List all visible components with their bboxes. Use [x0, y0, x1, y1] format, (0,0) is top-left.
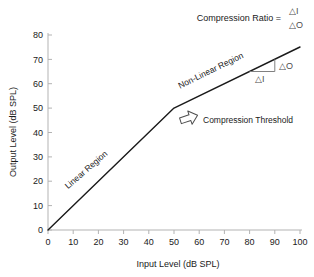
y-tick-label: 80 [33, 30, 43, 40]
delta-i-label: △I [255, 74, 265, 84]
linear-region-label: Linear Region [63, 148, 110, 190]
x-tick-label: 90 [270, 237, 280, 247]
legend-numerator-delta-i: △I [289, 6, 299, 16]
y-tick-label: 50 [33, 103, 43, 113]
y-tick-label: 70 [33, 55, 43, 65]
x-tick-label: 70 [219, 237, 229, 247]
y-axis-ticks [48, 35, 52, 230]
x-tick-label: 80 [245, 237, 255, 247]
y-tick-label: 10 [33, 201, 43, 211]
compression-threshold-callout: Compression Threshold [178, 109, 293, 128]
delta-o-label: △O [279, 61, 293, 71]
slope-triangle: △I △O [250, 59, 293, 84]
y-axis-tick-labels: 0 10 20 30 40 50 60 70 80 [33, 30, 43, 235]
x-tick-label: 10 [68, 237, 78, 247]
x-tick-label: 40 [144, 237, 154, 247]
x-tick-label: 100 [292, 237, 307, 247]
x-tick-label: 50 [169, 237, 179, 247]
x-tick-label: 30 [119, 237, 129, 247]
non-linear-region-label: Non-Linear Region [176, 50, 245, 90]
compression-ratio-label: Compression Ratio = [197, 13, 281, 23]
legend-denominator-delta-o: △O [289, 20, 303, 30]
x-axis-title: Input Level (dB SPL) [136, 259, 219, 269]
x-axis-ticks [48, 230, 300, 234]
x-tick-label: 20 [93, 237, 103, 247]
x-axis-tick-labels: 0 10 20 30 40 50 60 70 80 90 100 [45, 237, 307, 247]
y-tick-label: 40 [33, 128, 43, 138]
compression-threshold-label: Compression Threshold [203, 115, 293, 125]
y-tick-label: 0 [38, 225, 43, 235]
x-tick-label: 60 [194, 237, 204, 247]
y-axis-title: Output Level (dB SPL) [8, 87, 18, 177]
io-function-chart: Compression Ratio = △I △O [0, 0, 314, 277]
y-tick-label: 20 [33, 176, 43, 186]
compression-ratio-legend: Compression Ratio = △I △O [197, 6, 303, 30]
chart-page: Compression Ratio = △I △O [0, 0, 314, 277]
x-tick-label: 0 [45, 237, 50, 247]
callout-arrow-icon [178, 109, 199, 128]
y-tick-label: 60 [33, 79, 43, 89]
y-tick-label: 30 [33, 152, 43, 162]
